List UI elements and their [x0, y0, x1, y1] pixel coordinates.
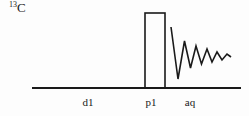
period-label-aq: aq	[185, 97, 195, 108]
period-label-d1: d1	[83, 97, 94, 108]
nmr-pulse-sequence-figure: 13C d1 p1 aq	[0, 0, 249, 116]
pulse-rectangle-p1	[145, 13, 165, 88]
period-label-p1: p1	[146, 97, 157, 108]
fid-decay-curve	[171, 27, 231, 79]
pulse-sequence-canvas	[0, 0, 249, 116]
